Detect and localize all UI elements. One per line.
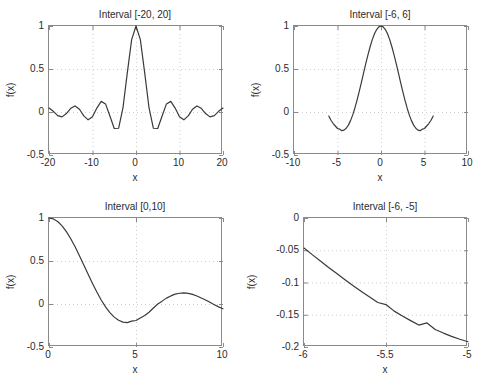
subplot-1-xlabel: x [133,172,138,183]
subplot-4: Interval [-6, -5]-0.2-0.15-0.1-0.050-6-5… [0,0,488,384]
subplot-4-xtick-label: -5.5 [376,349,393,360]
subplot-2-xlabel: x [378,172,383,183]
subplot-3: Interval [0,10]-0.500.510510xf(x) [0,0,488,384]
subplot-1-xtick-label: 20 [216,157,227,168]
subplot-2-ylabel: f(x) [250,82,261,96]
subplot-2-tickmarks [294,26,469,156]
subplot-3-ytick-label: -0.5 [4,341,44,352]
subplot-2-ytick-label: 0.5 [249,63,289,74]
subplot-1-ytick-label: 0.5 [4,63,44,74]
subplot-1-canvas [49,26,223,155]
subplot-3-ytick-label: 0 [4,298,44,309]
subplot-2-gridlines [294,26,468,155]
subplot-2-xtick-label: 5 [421,157,427,168]
subplot-4-gridlines [304,218,468,347]
subplot-1-xtick-label: -10 [84,157,98,168]
subplot-4-ytick-label: -0.15 [259,308,299,319]
subplot-1-ytick-label: 1 [4,20,44,31]
subplot-1-title: Interval [-20, 20] [48,9,222,20]
subplot-2-series-0 [329,26,433,131]
subplot-2-xtick-label: 0 [377,157,383,168]
subplot-1-ytick-label: -0.5 [4,149,44,160]
subplot-1-series-0 [49,26,223,128]
subplot-2-ytick-label: -0.5 [249,149,289,160]
subplot-1-gridlines [49,26,223,155]
subplot-1-tickmarks [49,26,224,156]
subplot-2-canvas [294,26,468,155]
subplot-4-ytick-label: 0 [259,212,299,223]
matlab-figure-window: Interval [-20, 20]-0.500.51-20-1001020xf… [0,0,488,384]
subplot-4-xlabel: x [383,364,388,375]
subplot-2-ytick-label: 1 [249,20,289,31]
subplot-3-ytick-label: 0.5 [4,255,44,266]
subplot-1-xtick-label: 10 [173,157,184,168]
subplot-3-ytick-label: 1 [4,212,44,223]
subplot-1-xtick-label: 0 [132,157,138,168]
subplot-3-title: Interval [0,10] [48,201,222,212]
subplot-3-canvas [49,218,223,347]
subplot-3-xlabel: x [133,364,138,375]
subplot-2-xtick-label: -5 [332,157,341,168]
subplot-1-ylabel: f(x) [5,82,16,96]
subplot-3-tickmarks [49,218,224,348]
subplot-3-xtick-label: 5 [132,349,138,360]
subplot-4-canvas [304,218,468,347]
subplot-2-axes [293,25,467,154]
subplot-1-xtick-label: -20 [41,157,55,168]
subplot-2-xtick-label: 10 [461,157,472,168]
subplot-4-xtick-label: -6 [299,349,308,360]
subplot-3-ylabel: f(x) [5,274,16,288]
subplot-4-axes [303,217,467,346]
subplot-2: Interval [-6, 6]-0.500.51-10-50510xf(x) [0,0,488,384]
subplot-1-axes [48,25,222,154]
subplot-4-tickmarks [304,218,469,348]
subplot-4-ytick-label: -0.05 [259,244,299,255]
subplot-4-ytick-label: -0.1 [259,276,299,287]
subplot-1-ytick-label: 0 [4,106,44,117]
subplot-3-axes [48,217,222,346]
subplot-4-xtick-label: -5 [463,349,472,360]
subplot-3-series-0 [49,218,223,323]
subplot-2-title: Interval [-6, 6] [293,9,467,20]
subplot-3-gridlines [49,218,223,347]
subplot-4-title: Interval [-6, -5] [303,201,467,212]
subplot-3-xtick-label: 10 [216,349,227,360]
subplot-4-ylabel: f(x) [246,274,257,288]
subplot-4-series-0 [304,248,468,342]
subplot-1: Interval [-20, 20]-0.500.51-20-1001020xf… [0,0,488,384]
subplot-3-xtick-label: 0 [45,349,51,360]
subplot-4-ytick-label: -0.2 [259,341,299,352]
subplot-2-ytick-label: 0 [249,106,289,117]
subplot-2-xtick-label: -10 [286,157,300,168]
